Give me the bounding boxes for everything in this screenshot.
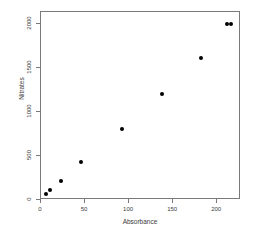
x-tick-mark bbox=[172, 199, 173, 203]
y-tick-label: 0 bbox=[25, 192, 33, 206]
y-tick-mark bbox=[36, 155, 40, 156]
y-tick-mark bbox=[36, 23, 40, 24]
y-tick-mark bbox=[36, 111, 40, 112]
x-tick-mark bbox=[40, 199, 41, 203]
x-tick-mark bbox=[84, 199, 85, 203]
x-tick-label: 0 bbox=[25, 205, 55, 213]
y-tick-label: 500 bbox=[25, 148, 33, 162]
scatter-plot-figure: 050100150200 0500100015002000 Absorbance… bbox=[0, 0, 254, 238]
x-tick-mark bbox=[216, 199, 217, 203]
x-tick-mark bbox=[128, 199, 129, 203]
x-axis-title: Absorbance bbox=[40, 218, 240, 225]
y-tick-label: 2000 bbox=[25, 16, 33, 30]
x-tick-label: 50 bbox=[69, 205, 99, 213]
y-axis-title: Nitrates bbox=[18, 69, 25, 109]
y-tick-label: 1500 bbox=[25, 60, 33, 74]
y-tick-label: 1000 bbox=[25, 104, 33, 118]
x-tick-label: 150 bbox=[157, 205, 187, 213]
y-tick-mark bbox=[36, 199, 40, 200]
x-tick-label: 200 bbox=[201, 205, 231, 213]
y-tick-mark bbox=[36, 67, 40, 68]
plot-frame bbox=[40, 11, 240, 199]
x-tick-label: 100 bbox=[113, 205, 143, 213]
